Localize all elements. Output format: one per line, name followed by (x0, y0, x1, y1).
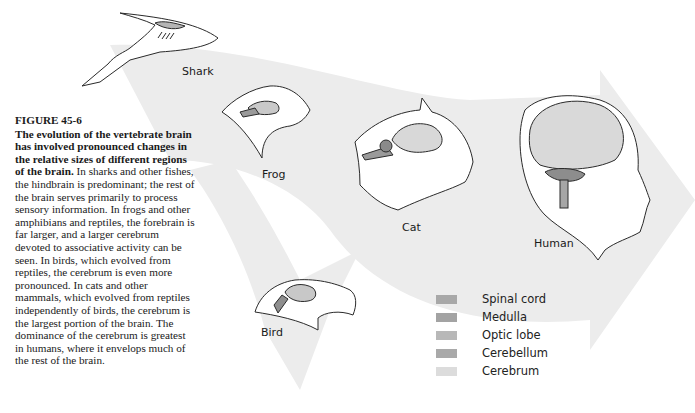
legend-item-cerebrum: Cerebrum (436, 362, 548, 380)
label-human: Human (534, 237, 574, 250)
legend-label: Optic lobe (482, 328, 541, 342)
legend-swatch (436, 367, 457, 376)
legend-label: Medulla (482, 310, 527, 324)
legend-label: Cerebellum (482, 346, 548, 360)
label-frog: Frog (262, 168, 286, 181)
brain-region-legend: Spinal cord Medulla Optic lobe Cerebellu… (436, 290, 548, 380)
label-bird: Bird (261, 326, 283, 339)
figure-caption-body: In sharks and other fishes, the hindbrai… (15, 165, 195, 366)
legend-item-optic-lobe: Optic lobe (436, 326, 548, 344)
label-shark: Shark (182, 65, 214, 78)
legend-item-spinal-cord: Spinal cord (436, 290, 548, 308)
label-cat: Cat (402, 221, 421, 234)
legend-label: Spinal cord (482, 292, 546, 306)
legend-label: Cerebrum (482, 364, 539, 378)
legend-item-medulla: Medulla (436, 308, 548, 326)
legend-swatch (436, 331, 457, 340)
legend-swatch (436, 295, 457, 304)
legend-swatch (436, 313, 457, 322)
legend-swatch (436, 349, 457, 358)
figure-number: FIGURE 45-6 (15, 114, 195, 127)
figure-caption: FIGURE 45-6 The evolution of the vertebr… (15, 114, 195, 367)
legend-item-cerebellum: Cerebellum (436, 344, 548, 362)
